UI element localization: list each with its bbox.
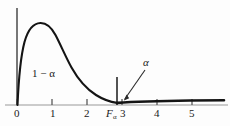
critical-value-base: F	[106, 107, 113, 119]
density-curve-tail	[117, 100, 224, 103]
x-tick-label-5: 5	[189, 108, 195, 119]
x-tick-label-1: 1	[50, 108, 56, 119]
critical-value-label: Fα	[106, 108, 117, 121]
f-distribution-figure: 0 1 2 3 4 5 Fα 1 − α α	[0, 0, 230, 126]
body-region-label: 1 − α	[32, 68, 55, 79]
x-tick-label-0: 0	[14, 108, 20, 119]
x-tick-label-2: 2	[84, 108, 90, 119]
critical-value-subscript: α	[113, 113, 117, 121]
x-tick-label-4: 4	[154, 108, 160, 119]
alpha-arrowhead-icon	[124, 95, 129, 101]
x-tick-label-3: 3	[120, 108, 126, 119]
density-curve-body	[18, 23, 118, 105]
tail-region-label: α	[143, 57, 149, 68]
alpha-leader-line	[125, 70, 146, 100]
